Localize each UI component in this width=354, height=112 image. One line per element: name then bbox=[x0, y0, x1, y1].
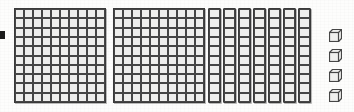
flat-unit-cell bbox=[168, 56, 177, 65]
rod-unit-cell bbox=[239, 56, 250, 65]
rod-unit-cell bbox=[239, 37, 250, 46]
rod-unit-cell bbox=[254, 28, 265, 37]
flat-unit-cell bbox=[177, 37, 186, 46]
flat-unit-cell bbox=[195, 18, 204, 27]
rod-unit-cell bbox=[299, 65, 310, 74]
flat-unit-cell bbox=[177, 18, 186, 27]
flat-unit-cell bbox=[150, 74, 159, 83]
flat-unit-cell bbox=[78, 46, 87, 55]
flat-unit-cell bbox=[141, 28, 150, 37]
flat-unit-cell bbox=[33, 37, 42, 46]
flat-unit-cell bbox=[60, 93, 69, 102]
flat-unit-cell bbox=[42, 93, 51, 102]
cube-glyph bbox=[329, 69, 342, 82]
flat-unit-cell bbox=[123, 83, 132, 92]
flat-unit-cell bbox=[24, 56, 33, 65]
rod-unit-cell bbox=[284, 93, 295, 102]
rod-unit-cell bbox=[269, 83, 280, 92]
flat-unit-cell bbox=[78, 28, 87, 37]
flat-unit-cell bbox=[150, 28, 159, 37]
flat-unit-cell bbox=[114, 28, 123, 37]
base-ten-blocks-figure bbox=[0, 0, 354, 112]
ones-cube bbox=[329, 29, 342, 42]
flat-unit-cell bbox=[114, 93, 123, 102]
flat-unit-cell bbox=[168, 9, 177, 18]
flat-unit-cell bbox=[186, 56, 195, 65]
rod-unit-cell bbox=[284, 46, 295, 55]
flat-unit-cell bbox=[159, 37, 168, 46]
flat-unit-cell bbox=[177, 93, 186, 102]
flat-unit-cell bbox=[33, 28, 42, 37]
flat-unit-cell bbox=[186, 46, 195, 55]
flat-unit-cell bbox=[60, 56, 69, 65]
rod-unit-cell bbox=[209, 37, 220, 46]
rod-unit-cell bbox=[224, 83, 235, 92]
flat-unit-cell bbox=[150, 56, 159, 65]
flat-unit-cell bbox=[123, 28, 132, 37]
flat-unit-cell bbox=[51, 9, 60, 18]
rod-unit-cell bbox=[284, 28, 295, 37]
rod-unit-cell bbox=[239, 9, 250, 18]
flat-unit-cell bbox=[87, 74, 96, 83]
rod-unit-cell bbox=[209, 46, 220, 55]
rod-unit-cell bbox=[239, 46, 250, 55]
tens-rod bbox=[223, 8, 236, 103]
flat-unit-cell bbox=[123, 46, 132, 55]
flat-unit-cell bbox=[69, 56, 78, 65]
flat-unit-cell bbox=[114, 46, 123, 55]
flat-unit-cell bbox=[123, 65, 132, 74]
rod-unit-cell bbox=[254, 74, 265, 83]
flat-unit-cell bbox=[114, 74, 123, 83]
rod-unit-cell bbox=[209, 93, 220, 102]
cube-glyph bbox=[329, 89, 342, 102]
flat-unit-cell bbox=[141, 83, 150, 92]
flat-unit-cell bbox=[15, 37, 24, 46]
flat-unit-cell bbox=[69, 83, 78, 92]
flat-unit-cell bbox=[195, 93, 204, 102]
flat-unit-cell bbox=[96, 56, 105, 65]
flat-unit-cell bbox=[195, 9, 204, 18]
flat-unit-cell bbox=[177, 65, 186, 74]
flat-unit-cell bbox=[186, 9, 195, 18]
rod-unit-cell bbox=[284, 9, 295, 18]
flat-unit-cell bbox=[123, 74, 132, 83]
rod-unit-cell bbox=[269, 9, 280, 18]
cube-glyph bbox=[329, 49, 342, 62]
flat-unit-cell bbox=[78, 65, 87, 74]
rod-unit-cell bbox=[299, 74, 310, 83]
flat-unit-cell bbox=[195, 74, 204, 83]
flat-unit-cell bbox=[96, 37, 105, 46]
flat-unit-cell bbox=[150, 37, 159, 46]
flat-unit-cell bbox=[168, 74, 177, 83]
rod-unit-cell bbox=[209, 74, 220, 83]
rod-unit-cell bbox=[239, 93, 250, 102]
flat-unit-cell bbox=[87, 18, 96, 27]
flat-unit-cell bbox=[42, 28, 51, 37]
rod-unit-cell bbox=[299, 83, 310, 92]
flat-unit-cell bbox=[168, 28, 177, 37]
flat-unit-cell bbox=[195, 56, 204, 65]
cube-glyph bbox=[329, 29, 342, 42]
flat-unit-cell bbox=[51, 46, 60, 55]
rod-unit-cell bbox=[209, 56, 220, 65]
flat-unit-cell bbox=[132, 56, 141, 65]
tens-rod bbox=[208, 8, 221, 103]
flat-unit-cell bbox=[132, 37, 141, 46]
ones-cube bbox=[329, 89, 342, 102]
flat-unit-cell bbox=[51, 37, 60, 46]
flat-unit-cell bbox=[186, 83, 195, 92]
rod-unit-cell bbox=[269, 18, 280, 27]
rod-unit-cell bbox=[284, 65, 295, 74]
rod-unit-cell bbox=[209, 18, 220, 27]
flat-unit-cell bbox=[132, 65, 141, 74]
flat-unit-cell bbox=[15, 65, 24, 74]
flat-unit-cell bbox=[24, 93, 33, 102]
flat-unit-cell bbox=[159, 74, 168, 83]
flat-unit-cell bbox=[15, 74, 24, 83]
flat-unit-cell bbox=[195, 46, 204, 55]
rod-unit-cell bbox=[299, 56, 310, 65]
flat-unit-cell bbox=[60, 83, 69, 92]
rod-unit-cell bbox=[284, 56, 295, 65]
flat-unit-cell bbox=[33, 18, 42, 27]
flat-unit-cell bbox=[114, 18, 123, 27]
